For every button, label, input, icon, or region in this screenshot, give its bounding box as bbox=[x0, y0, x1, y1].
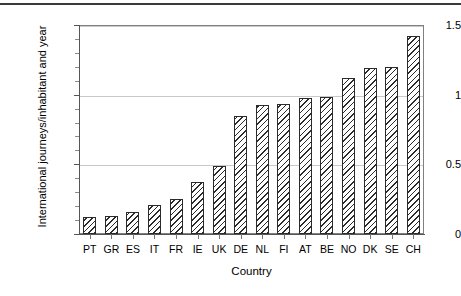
bar-chart-figure: International journeys/inhabitant and ye… bbox=[0, 0, 461, 296]
y-tick bbox=[74, 234, 79, 235]
bar-series bbox=[79, 25, 424, 234]
y-axis-title: International journeys/inhabitant and ye… bbox=[36, 17, 49, 237]
bar-no bbox=[342, 78, 355, 234]
bar-es bbox=[126, 212, 139, 234]
bar-nl bbox=[256, 105, 269, 234]
bar-be bbox=[320, 97, 333, 234]
x-tick bbox=[198, 234, 199, 239]
x-tick bbox=[176, 234, 177, 239]
header-rule bbox=[0, 3, 461, 5]
x-tick bbox=[392, 234, 393, 239]
bar-se bbox=[385, 67, 398, 234]
x-axis-title: Country bbox=[79, 265, 424, 277]
x-tick bbox=[305, 234, 306, 239]
x-tick bbox=[133, 234, 134, 239]
x-tick bbox=[241, 234, 242, 239]
x-tick bbox=[262, 234, 263, 239]
x-axis-line bbox=[79, 234, 425, 235]
bar-fi bbox=[277, 104, 290, 234]
x-tick bbox=[90, 234, 91, 239]
x-tick bbox=[413, 234, 414, 239]
bar-dk bbox=[364, 68, 377, 234]
bar-gr bbox=[105, 216, 118, 234]
bar-ch bbox=[407, 36, 420, 234]
x-tick bbox=[370, 234, 371, 239]
x-tick bbox=[154, 234, 155, 239]
x-tick bbox=[327, 234, 328, 239]
bar-it bbox=[148, 205, 161, 234]
bar-uk bbox=[213, 166, 226, 234]
x-tick-label-ch: CH bbox=[399, 243, 427, 255]
x-tick bbox=[219, 234, 220, 239]
bar-pt bbox=[83, 217, 96, 234]
x-tick bbox=[284, 234, 285, 239]
bar-fr bbox=[170, 199, 183, 234]
bar-ie bbox=[191, 182, 204, 234]
x-tick bbox=[111, 234, 112, 239]
bar-de bbox=[234, 116, 247, 234]
bar-at bbox=[299, 98, 312, 234]
x-tick bbox=[349, 234, 350, 239]
